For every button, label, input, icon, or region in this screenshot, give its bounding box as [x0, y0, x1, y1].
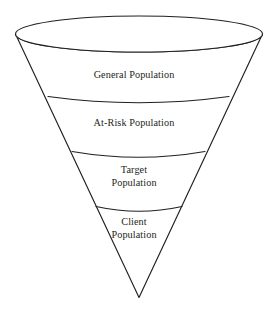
- funnel-diagram: General Population At-Risk Population Ta…: [0, 0, 268, 312]
- funnel-top-rim: [16, 16, 263, 52]
- funnel-shape: [0, 0, 268, 312]
- cone-body: [16, 34, 263, 298]
